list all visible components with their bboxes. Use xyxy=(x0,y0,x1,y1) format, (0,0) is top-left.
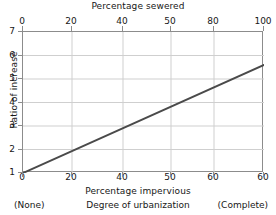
top-axis-tick-mark xyxy=(263,26,264,31)
x-tick-mark xyxy=(122,172,123,177)
y-tick-label: 4 xyxy=(9,97,15,107)
top-axis-tick-mark xyxy=(22,26,23,31)
data-line xyxy=(23,65,264,173)
top-axis-tick-label: 20 xyxy=(65,16,76,26)
top-axis-tick-mark xyxy=(170,26,171,31)
top-axis-tick-mark xyxy=(213,26,214,31)
plot-area xyxy=(22,31,263,172)
top-axis-tick-label: 40 xyxy=(116,16,127,26)
plot-svg xyxy=(23,32,264,173)
x-tick-mark xyxy=(71,172,72,177)
top-axis-tick-mark xyxy=(71,26,72,31)
y-tick-mark xyxy=(18,102,22,103)
y-tick-mark xyxy=(18,125,22,126)
y-tick-label: 3 xyxy=(9,120,15,130)
top-axis-title: Percentage sewered xyxy=(0,1,276,11)
x-tick-mark xyxy=(170,172,171,177)
y-tick-label: 7 xyxy=(9,26,15,36)
x-tick-mark xyxy=(213,172,214,177)
top-axis-tick-mark xyxy=(122,26,123,31)
top-axis-tick-label: 100 xyxy=(254,16,271,26)
y-tick-mark xyxy=(18,55,22,56)
x-tick-mark xyxy=(22,172,23,177)
data-series-group xyxy=(23,65,264,173)
y-tick-mark xyxy=(18,31,22,32)
top-axis-tick-label: 80 xyxy=(207,16,218,26)
y-tick-label: 2 xyxy=(9,144,15,154)
y-tick-label: 6 xyxy=(9,50,15,60)
y-tick-label: 1 xyxy=(9,167,15,177)
x-tick-mark xyxy=(263,172,264,177)
y-tick-mark xyxy=(18,78,22,79)
horizontal-gridlines xyxy=(23,56,264,150)
x-axis-title: Percentage impervious xyxy=(0,186,276,196)
y-tick-mark xyxy=(18,149,22,150)
caption-row: (None) Degree of urbanization (Complete) xyxy=(0,200,276,213)
top-axis-tick-label: 50 xyxy=(164,16,175,26)
caption-right-complete: (Complete) xyxy=(218,200,268,210)
top-axis-tick-label: 0 xyxy=(19,16,25,26)
y-tick-label: 5 xyxy=(9,73,15,83)
chart-figure: Percentage sewered Ratio of increase 123… xyxy=(0,0,276,215)
